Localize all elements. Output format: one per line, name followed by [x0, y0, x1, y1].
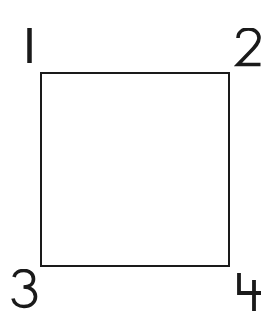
corner-label-2: 2 [234, 28, 264, 68]
corner-label-3: 3 [10, 269, 40, 309]
corner-label-4: 4 [234, 271, 264, 313]
diagram-canvas: 1 2 3 4 [0, 0, 277, 317]
corner-label-1: 1 [24, 26, 36, 66]
square-shape [40, 72, 230, 267]
